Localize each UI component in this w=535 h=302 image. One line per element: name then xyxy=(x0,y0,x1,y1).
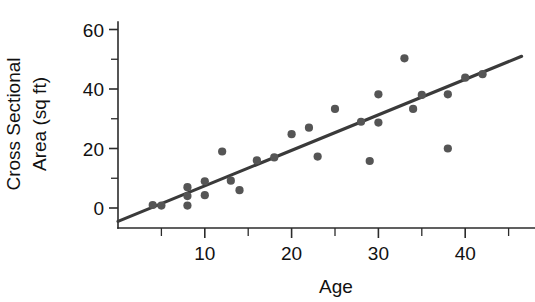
data-point-22 xyxy=(418,91,426,99)
data-point-15 xyxy=(331,105,339,113)
data-point-3 xyxy=(183,192,191,200)
scatter-plot-figure: 020406010203040AgeCross SectionalArea (s… xyxy=(0,0,535,302)
x-tick-label-20: 20 xyxy=(281,243,302,264)
data-point-18 xyxy=(374,90,382,98)
y-axis-title: Cross SectionalArea (sq ft) xyxy=(3,57,50,190)
data-point-11 xyxy=(270,153,278,161)
data-point-21 xyxy=(409,105,417,113)
data-point-16 xyxy=(357,118,365,126)
data-point-4 xyxy=(183,202,191,210)
data-point-26 xyxy=(478,70,486,78)
data-point-10 xyxy=(253,156,261,164)
x-tick-label-30: 30 xyxy=(368,243,389,264)
data-point-13 xyxy=(305,124,313,132)
data-point-0 xyxy=(149,201,157,209)
data-point-9 xyxy=(235,186,243,194)
y-tick-label-0: 0 xyxy=(93,198,104,219)
data-point-20 xyxy=(400,54,408,62)
x-tick-label-40: 40 xyxy=(455,243,476,264)
data-point-8 xyxy=(227,177,235,185)
data-point-17 xyxy=(366,157,374,165)
data-point-7 xyxy=(218,147,226,155)
data-point-1 xyxy=(157,202,165,210)
data-point-24 xyxy=(444,144,452,152)
data-point-19 xyxy=(374,119,382,127)
regression-line xyxy=(118,56,522,221)
y-tick-label-60: 60 xyxy=(83,20,104,41)
x-axis-title: Age xyxy=(319,276,353,297)
y-axis-title-line-1: Area (sq ft) xyxy=(29,77,50,171)
data-point-2 xyxy=(183,183,191,191)
data-point-25 xyxy=(461,74,469,82)
chart-canvas: 020406010203040AgeCross SectionalArea (s… xyxy=(0,0,535,302)
y-tick-label-20: 20 xyxy=(83,139,104,160)
data-point-14 xyxy=(314,152,322,160)
data-point-23 xyxy=(444,90,452,98)
data-point-12 xyxy=(288,130,296,138)
y-axis-title-line-0: Cross Sectional xyxy=(3,57,24,190)
data-point-6 xyxy=(201,191,209,199)
y-tick-label-40: 40 xyxy=(83,79,104,100)
x-tick-label-10: 10 xyxy=(194,243,215,264)
data-point-5 xyxy=(201,177,209,185)
